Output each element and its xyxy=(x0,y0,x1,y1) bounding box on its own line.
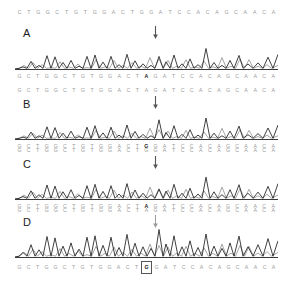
base-letter: G xyxy=(106,85,115,96)
base-letter: A xyxy=(242,71,251,82)
base-letter: A xyxy=(242,145,251,156)
base-letter: C xyxy=(205,85,214,96)
base-letter: G xyxy=(137,7,146,18)
base-letter: C xyxy=(179,262,188,273)
base-letter: A xyxy=(142,205,151,216)
base-letter: C xyxy=(60,85,69,96)
base-letter: C xyxy=(260,145,269,156)
variant-base-letter: A xyxy=(142,71,151,82)
base-letter: C xyxy=(123,262,132,273)
base-letter: G xyxy=(223,85,232,96)
base-letter: T xyxy=(133,85,142,96)
base-letter: A xyxy=(269,7,278,18)
base-letter: G xyxy=(42,145,51,156)
base-letter: A xyxy=(214,85,223,96)
base-letter: G xyxy=(152,262,161,273)
variant-base-letter: G xyxy=(141,261,152,274)
panel-a-trace-svg xyxy=(15,44,278,70)
base-letter: A xyxy=(115,85,124,96)
base-letter: C xyxy=(205,145,214,156)
base-letter: C xyxy=(188,262,197,273)
panel-d-down-arrow-icon xyxy=(152,215,159,228)
base-letter: A xyxy=(242,205,251,216)
base-letter: G xyxy=(151,145,160,156)
panel-c-trace-svg xyxy=(15,174,278,200)
panel-d-label: D xyxy=(23,216,31,228)
panel-b-top-sequence: GCTGGCTGTGGACTAGATCCACAGCAACA xyxy=(15,85,278,96)
base-letter: C xyxy=(205,71,214,82)
base-letter: T xyxy=(69,85,78,96)
base-letter: C xyxy=(233,85,242,96)
panel-a-baseline xyxy=(15,69,278,70)
base-letter: A xyxy=(160,205,169,216)
base-letter: A xyxy=(156,7,165,18)
base-letter: A xyxy=(269,145,278,156)
base-letter: T xyxy=(69,145,78,156)
base-letter: C xyxy=(24,262,33,273)
base-letter: A xyxy=(213,7,222,18)
base-letter: T xyxy=(69,71,78,82)
base-letter: A xyxy=(214,71,223,82)
base-letter: C xyxy=(178,145,187,156)
base-letter: G xyxy=(43,7,52,18)
base-letter: T xyxy=(169,145,178,156)
base-letter: G xyxy=(42,85,51,96)
base-letter: A xyxy=(109,7,118,18)
base-letter: T xyxy=(133,145,142,156)
base-letter: A xyxy=(269,205,278,216)
panel-c-trace xyxy=(15,174,278,200)
base-letter: A xyxy=(196,145,205,156)
base-letter: T xyxy=(33,145,42,156)
base-letter: A xyxy=(142,85,151,96)
base-letter: G xyxy=(106,145,115,156)
base-letter: T xyxy=(128,7,137,18)
panel-a-down-arrow-icon xyxy=(152,26,159,39)
base-letter: A xyxy=(161,262,170,273)
base-letter: G xyxy=(51,145,60,156)
base-letter: C xyxy=(260,85,269,96)
base-letter: G xyxy=(51,85,60,96)
base-letter: T xyxy=(33,85,42,96)
base-letter: G xyxy=(222,7,231,18)
base-letter: C xyxy=(187,205,196,216)
base-letter: A xyxy=(197,262,206,273)
panel-a-trace xyxy=(15,44,278,70)
base-letter: C xyxy=(187,85,196,96)
base-letter: G xyxy=(106,205,115,216)
base-letter: C xyxy=(60,262,69,273)
base-letter: G xyxy=(223,71,232,82)
panel-c-top-sequence: GCTGGCTGTGGACTGGATCCACAGCAACA xyxy=(15,145,278,156)
base-letter: G xyxy=(151,85,160,96)
base-letter: C xyxy=(124,145,133,156)
base-letter: A xyxy=(160,71,169,82)
base-letter: C xyxy=(60,145,69,156)
base-letter: G xyxy=(147,7,156,18)
base-letter: C xyxy=(24,71,33,82)
base-letter: C xyxy=(118,7,127,18)
base-letter: G xyxy=(151,71,160,82)
base-letter: G xyxy=(97,85,106,96)
base-letter: G xyxy=(223,205,232,216)
base-letter: G xyxy=(78,262,87,273)
base-letter: T xyxy=(33,262,42,273)
base-letter: A xyxy=(269,71,278,82)
base-letter: C xyxy=(24,205,33,216)
base-letter: C xyxy=(53,7,62,18)
base-letter: G xyxy=(151,205,160,216)
base-letter: A xyxy=(251,205,260,216)
base-letter: A xyxy=(251,71,260,82)
base-letter: A xyxy=(196,85,205,96)
base-letter: G xyxy=(34,7,43,18)
base-letter: T xyxy=(81,7,90,18)
base-letter: G xyxy=(42,262,51,273)
base-letter: C xyxy=(24,145,33,156)
base-letter: C xyxy=(124,205,133,216)
base-letter: A xyxy=(214,205,223,216)
panel-b-baseline xyxy=(15,139,278,140)
base-letter: G xyxy=(97,71,106,82)
base-letter: G xyxy=(51,262,60,273)
base-letter: A xyxy=(160,145,169,156)
base-letter: A xyxy=(115,205,124,216)
panel-a: CTGGCTGTGGACTGGATCCACAGCAACA A xyxy=(0,0,293,72)
base-letter: G xyxy=(71,7,80,18)
